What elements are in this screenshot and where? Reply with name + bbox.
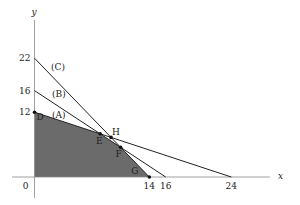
y-tick-22: 22 [19,53,30,63]
x-axis-label: x [278,171,283,181]
x-tick-14: 14 [144,181,156,191]
x-tick-24: 24 [226,181,238,191]
point-label-f: F [116,149,122,159]
point-label-d: D [37,112,44,122]
line-label-a: (A) [52,110,66,120]
origin-label: 0 [23,181,29,191]
point-label-g: G [131,166,138,176]
x-tick-16: 16 [160,181,172,191]
point-label-e: E [96,136,103,146]
point-g [148,175,152,179]
y-tick-12: 12 [19,107,30,117]
line-label-c: (C) [51,62,65,72]
y-axis-label: y [31,7,38,17]
feasible-region-diagram: (A)(B)(C)DEHFG1416241216220xy [0,0,300,205]
point-label-h: H [112,127,120,137]
y-tick-16: 16 [19,86,31,96]
line-label-b: (B) [52,89,66,99]
